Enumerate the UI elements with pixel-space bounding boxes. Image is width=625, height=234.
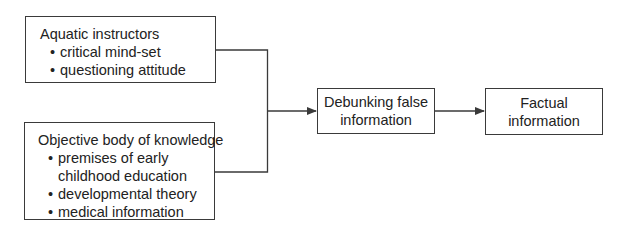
- bullet-item: premises of early childhood education: [48, 149, 214, 185]
- label-line: information: [508, 113, 580, 129]
- bullet-list: premises of early childhood education de…: [38, 149, 214, 221]
- node-debunking: Debunking false information: [317, 88, 435, 134]
- node-label: Factual information: [508, 94, 580, 130]
- bullet-item: medical information: [48, 203, 214, 221]
- node-factual: Factual information: [485, 88, 603, 135]
- node-title: Objective body of knowledge: [38, 131, 214, 149]
- node-label: Debunking false information: [324, 93, 428, 129]
- bullet-line: childhood education: [58, 168, 187, 184]
- node-title: Aquatic instructors: [40, 25, 215, 43]
- connector-instructors: [216, 50, 268, 111]
- label-line: Debunking false: [324, 94, 428, 110]
- bullet-item: questioning attitude: [50, 61, 215, 79]
- bullet-item: developmental theory: [48, 185, 214, 203]
- bullet-item: critical mind-set: [50, 43, 215, 61]
- label-line: Factual: [520, 95, 568, 111]
- node-aquatic-instructors: Aquatic instructors critical mind-set qu…: [25, 16, 216, 83]
- node-objective-knowledge: Objective body of knowledge premises of …: [24, 122, 215, 220]
- bullet-line: premises of early: [58, 150, 168, 166]
- label-line: information: [340, 112, 412, 128]
- bullet-list: critical mind-set questioning attitude: [40, 43, 215, 79]
